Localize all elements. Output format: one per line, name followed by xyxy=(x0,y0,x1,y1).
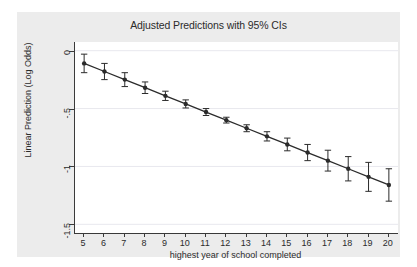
x-tick-mark xyxy=(103,233,104,237)
x-tick-mark xyxy=(164,233,165,237)
x-tick-mark xyxy=(83,233,84,237)
x-tick-mark xyxy=(327,233,328,237)
x-tick-mark xyxy=(124,233,125,237)
x-tick-mark xyxy=(388,233,389,237)
y-tick-label: -1 xyxy=(62,165,72,215)
error-bars xyxy=(81,54,392,201)
chart-canvas xyxy=(75,42,398,233)
x-tick-mark xyxy=(225,233,226,237)
x-tick-mark xyxy=(347,233,348,237)
x-tick-mark xyxy=(307,233,308,237)
x-tick-mark xyxy=(286,233,287,237)
x-axis-tick-group: 567891011121314151617181920 xyxy=(74,238,397,250)
x-tick-label: 20 xyxy=(376,238,400,248)
x-tick-mark xyxy=(185,233,186,237)
plot-area xyxy=(74,42,398,234)
gridlines xyxy=(75,51,398,225)
figure-background: Adjusted Predictions with 95% CIs 0-.5-1… xyxy=(17,12,400,257)
x-tick-mark xyxy=(246,233,247,237)
x-tick-mark xyxy=(368,233,369,237)
chart-title: Adjusted Predictions with 95% CIs xyxy=(17,19,400,31)
x-axis-title: highest year of school completed xyxy=(74,250,397,260)
x-tick-mark xyxy=(205,233,206,237)
x-tick-mark xyxy=(144,233,145,237)
y-tick-label: 0 xyxy=(62,50,72,100)
x-tick-mark xyxy=(266,233,267,237)
y-axis-title: Linear Prediction (Log Odds) xyxy=(23,0,33,230)
y-tick-label: -.5 xyxy=(62,108,72,158)
